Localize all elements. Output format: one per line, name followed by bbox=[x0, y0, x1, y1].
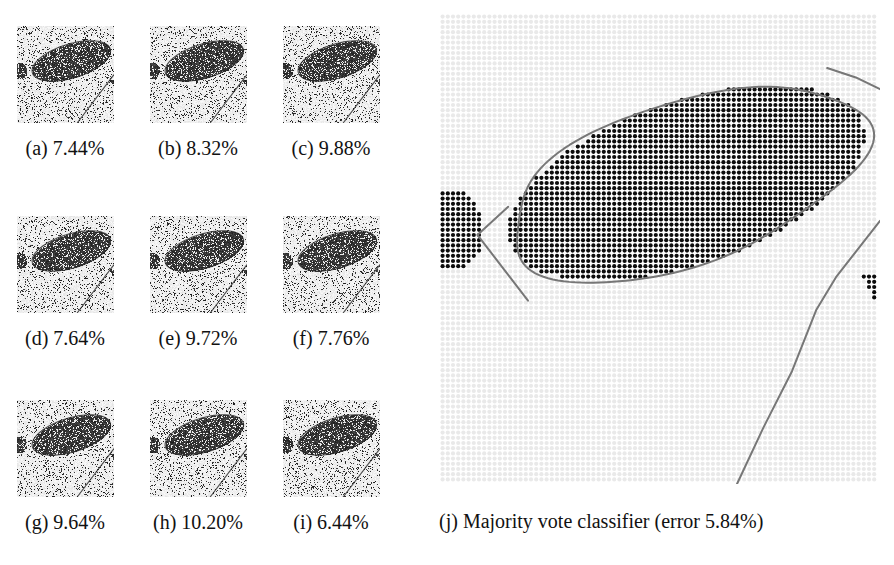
thumbnail-cell: (a) 7.44% bbox=[0, 26, 130, 161]
thumbnail-cell: (d) 7.64% bbox=[0, 216, 130, 351]
thumbnail-cell: (h) 10.20% bbox=[133, 400, 263, 535]
thumbnail-caption: (c) 9.88% bbox=[266, 135, 396, 161]
thumbnail-grid: (a) 7.44% (b) 8.32% (c) 9.88% (d) 7.64% … bbox=[0, 0, 420, 565]
thumbnail-caption: (g) 9.64% bbox=[0, 509, 130, 535]
thumbnail-caption: (b) 8.32% bbox=[133, 135, 263, 161]
segmentation-image-g bbox=[17, 400, 114, 497]
segmentation-image-h bbox=[150, 400, 247, 497]
thumbnail-cell: (c) 9.88% bbox=[266, 26, 396, 161]
thumbnail-cell: (i) 6.44% bbox=[266, 400, 396, 535]
thumbnail-cell: (g) 9.64% bbox=[0, 400, 130, 535]
thumbnail-caption: (a) 7.44% bbox=[0, 135, 130, 161]
segmentation-image-b bbox=[150, 26, 247, 123]
thumbnail-caption: (e) 9.72% bbox=[133, 325, 263, 351]
segmentation-image-d bbox=[17, 216, 114, 313]
thumbnail-cell: (e) 9.72% bbox=[133, 216, 263, 351]
majority-vote-caption: (j) Majority vote classifier (error 5.84… bbox=[439, 508, 894, 534]
thumbnail-caption: (i) 6.44% bbox=[266, 509, 396, 535]
majority-vote-dot-grid bbox=[440, 14, 880, 484]
segmentation-image-i bbox=[283, 400, 380, 497]
majority-vote-panel: (j) Majority vote classifier (error 5.84… bbox=[425, 0, 894, 565]
figure-root: (a) 7.44% (b) 8.32% (c) 9.88% (d) 7.64% … bbox=[0, 0, 894, 565]
segmentation-image-f bbox=[283, 216, 380, 313]
thumbnail-caption: (d) 7.64% bbox=[0, 325, 130, 351]
thumbnail-caption: (f) 7.76% bbox=[266, 325, 396, 351]
thumbnail-cell: (b) 8.32% bbox=[133, 26, 263, 161]
segmentation-image-c bbox=[283, 26, 380, 123]
thumbnail-cell: (f) 7.76% bbox=[266, 216, 396, 351]
segmentation-image-e bbox=[150, 216, 247, 313]
thumbnail-caption: (h) 10.20% bbox=[133, 509, 263, 535]
segmentation-image-a bbox=[17, 26, 114, 123]
